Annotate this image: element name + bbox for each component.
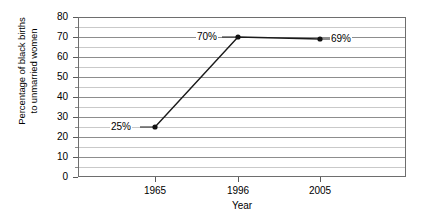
line-chart-figure: Percentage of black births to unmarried … bbox=[0, 0, 426, 221]
data-label-1965: 25% bbox=[110, 121, 132, 132]
series-line bbox=[155, 37, 320, 127]
data-point-1965 bbox=[152, 124, 157, 129]
data-point-2005 bbox=[317, 36, 322, 41]
data-label-1996: 70% bbox=[196, 31, 218, 42]
data-point-1996 bbox=[235, 34, 240, 39]
data-label-2005: 69% bbox=[330, 33, 352, 44]
